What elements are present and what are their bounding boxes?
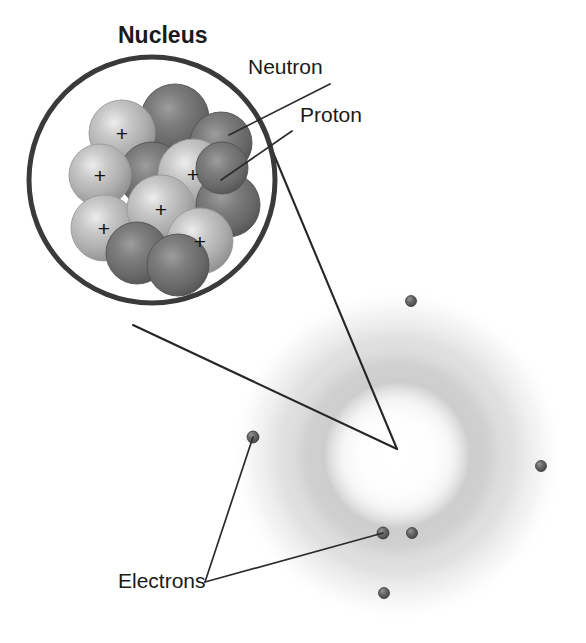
electron-particle (406, 296, 417, 307)
proton-charge-mark: + (155, 198, 167, 221)
electron-particle (379, 588, 390, 599)
electron-cloud (229, 287, 565, 623)
electron-particle (536, 461, 547, 472)
proton-charge-mark: + (94, 164, 106, 187)
proton-charge-mark: + (116, 122, 128, 145)
label-proton: Proton (300, 103, 362, 126)
atom-structure-diagram: ++++++ Nucleus Neutron Proton Electrons (0, 0, 586, 643)
label-electrons: Electrons (118, 569, 206, 592)
label-nucleus: Nucleus (118, 22, 207, 48)
proton-charge-mark: + (98, 217, 110, 240)
proton-charge-mark: + (194, 230, 206, 253)
label-neutron: Neutron (248, 55, 323, 78)
proton-charge-mark: + (187, 163, 199, 186)
electron-cloud-core (335, 393, 459, 517)
neutron-sphere (196, 142, 248, 194)
electron-particle (407, 528, 418, 539)
nucleus-magnified-view: ++++++ (29, 57, 275, 303)
